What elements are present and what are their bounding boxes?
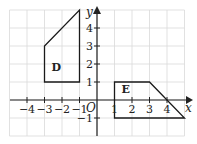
y-axis-label: y xyxy=(85,5,93,19)
x-tick-label: −3 xyxy=(36,103,52,116)
x-tick-label: 4 xyxy=(164,103,171,116)
x-tick-label: 3 xyxy=(146,103,153,116)
coordinate-plane: x y O −4−3−2−11234−11234 DE xyxy=(0,0,197,144)
y-tick-label: 3 xyxy=(86,40,93,53)
y-tick-label: 2 xyxy=(86,58,93,71)
shape-label-d: D xyxy=(52,61,62,74)
x-tick-label: −2 xyxy=(54,103,70,116)
x-tick-label: 2 xyxy=(129,103,136,116)
shape-label-e: E xyxy=(122,83,130,96)
y-tick-label: −1 xyxy=(77,112,93,125)
y-tick-label: 1 xyxy=(86,76,93,89)
x-axis-label: x xyxy=(185,101,192,115)
y-tick-label: 4 xyxy=(86,22,93,35)
x-tick-label: −4 xyxy=(19,103,35,116)
